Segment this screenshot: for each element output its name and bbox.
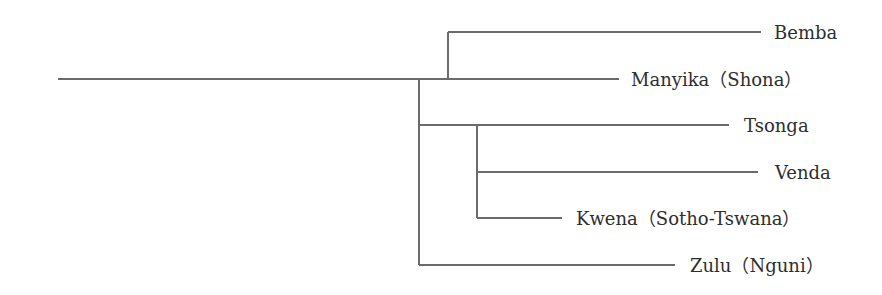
leaf-label-bemba: Bemba bbox=[774, 22, 837, 43]
language-tree-diagram: Bemba Manyika（Shona） Tsonga Venda Kwena（… bbox=[0, 0, 882, 295]
leaf-label-tsonga: Tsonga bbox=[744, 115, 809, 136]
leaf-label-kwena: Kwena（Sotho-Tswana） bbox=[576, 208, 801, 229]
leaf-label-venda: Venda bbox=[774, 162, 831, 183]
leaf-label-manyika: Manyika（Shona） bbox=[631, 69, 802, 90]
leaf-label-zulu: Zulu（Nguni） bbox=[690, 255, 824, 276]
